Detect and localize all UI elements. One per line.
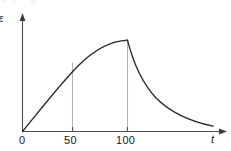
plot-canvas <box>0 0 231 151</box>
x-tick-label-50: 50 <box>64 134 77 146</box>
x-axis-title: t <box>211 133 214 145</box>
creep-recovery-figure: a) g ε 0 50 100 t <box>0 0 231 151</box>
x-tick-label-100: 100 <box>116 134 135 146</box>
y-axis <box>20 13 26 132</box>
x-tick-label-0: 0 <box>19 134 25 146</box>
y-axis-title: ε <box>0 13 3 24</box>
curve-loading-creep <box>23 40 128 131</box>
curve-unloading-recovery <box>128 40 214 126</box>
